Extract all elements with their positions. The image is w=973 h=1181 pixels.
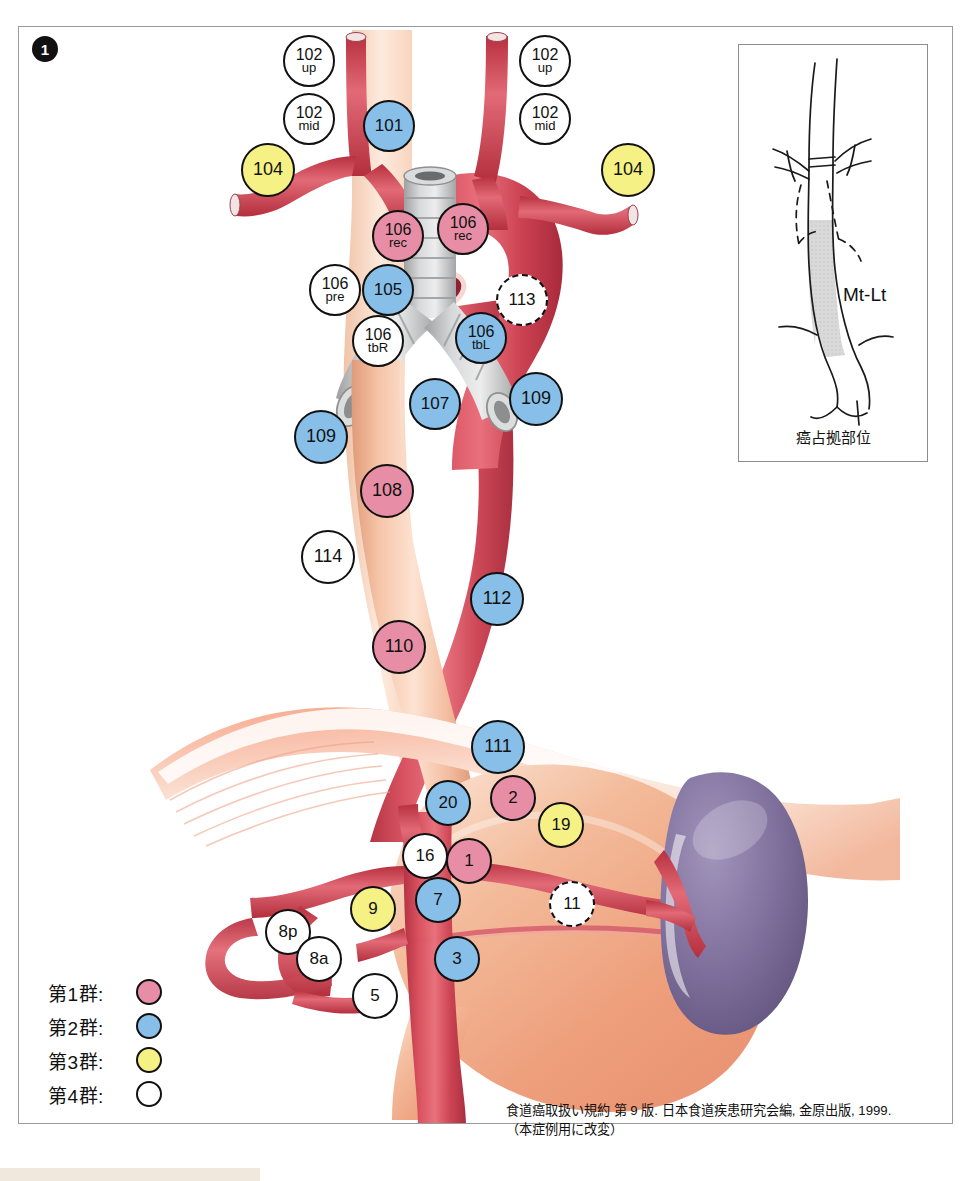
node-label-secondary: tbR (368, 342, 388, 355)
node-marker-106tbR[interactable]: 106tbR (352, 315, 404, 367)
node-label-primary: 104 (253, 161, 283, 179)
node-marker-113[interactable]: 113 (496, 274, 548, 326)
node-label-primary: 112 (483, 590, 512, 608)
node-label-primary: 2 (508, 790, 517, 807)
node-marker-8a[interactable]: 8a (296, 936, 342, 982)
node-marker-111[interactable]: 111 (471, 720, 525, 774)
legend-row-group2: 第2群: (48, 1009, 162, 1043)
node-marker-108[interactable]: 108 (360, 464, 414, 518)
node-marker-11[interactable]: 11 (549, 881, 595, 927)
node-label-primary: 113 (508, 292, 535, 309)
tumor-location-inset: Mt-Lt 癌占拠部位 (738, 44, 928, 462)
node-marker-107[interactable]: 107 (409, 378, 461, 430)
node-marker-102mid-left[interactable]: 102mid (283, 93, 335, 145)
node-marker-106rec-left[interactable]: 106rec (372, 210, 424, 262)
node-marker-112[interactable]: 112 (470, 572, 524, 626)
node-label-primary: 1 (464, 853, 473, 870)
node-marker-2[interactable]: 2 (490, 775, 536, 821)
node-marker-9[interactable]: 9 (350, 886, 396, 932)
node-label-primary: 101 (375, 118, 403, 135)
legend-row-group4: 第4群: (48, 1077, 162, 1111)
node-label-primary: 108 (372, 482, 402, 500)
node-label-secondary: rec (454, 230, 472, 243)
legend-label: 第4群: (48, 1081, 136, 1108)
node-marker-106pre[interactable]: 106pre (309, 264, 361, 316)
page-bottom-strip (0, 1168, 260, 1181)
node-marker-105[interactable]: 105 (362, 264, 414, 316)
node-marker-104-right[interactable]: 104 (601, 143, 655, 197)
node-label-primary: 114 (314, 548, 343, 566)
legend-swatch-group4 (136, 1081, 162, 1107)
legend-label: 第3群: (48, 1047, 136, 1074)
node-label-primary: 110 (385, 638, 414, 656)
node-marker-106rec-right[interactable]: 106rec (437, 203, 489, 255)
node-label-primary: 8a (310, 951, 329, 968)
node-marker-19[interactable]: 19 (538, 802, 584, 848)
node-marker-102up-left[interactable]: 102up (283, 35, 335, 87)
node-label-primary: 109 (521, 390, 551, 408)
citation: 食道癌取扱い規約 第 9 版. 日本食道疾患研究会編, 金原出版, 1999. … (506, 1101, 936, 1139)
node-marker-104-left[interactable]: 104 (241, 143, 295, 197)
node-label-primary: 107 (421, 396, 449, 413)
node-label-primary: 16 (416, 848, 435, 865)
legend-label: 第1群: (48, 979, 136, 1006)
node-marker-101[interactable]: 101 (363, 100, 415, 152)
node-marker-109-left[interactable]: 109 (294, 410, 348, 464)
node-marker-16[interactable]: 16 (402, 833, 448, 879)
node-marker-102up-right[interactable]: 102up (519, 35, 571, 87)
node-label-primary: 19 (552, 817, 571, 834)
node-label-primary: 105 (374, 282, 402, 299)
node-label-primary: 7 (433, 892, 442, 909)
node-marker-7[interactable]: 7 (415, 877, 461, 923)
node-label-primary: 11 (563, 896, 581, 913)
node-label-secondary: tbL (472, 339, 490, 352)
node-label-primary: 5 (370, 988, 379, 1005)
node-label-secondary: mid (534, 120, 555, 133)
node-marker-1[interactable]: 1 (446, 838, 492, 884)
node-marker-5[interactable]: 5 (352, 973, 398, 1019)
legend-row-group3: 第3群: (48, 1043, 162, 1077)
node-label-secondary: pre (326, 291, 345, 304)
node-marker-3[interactable]: 3 (434, 936, 480, 982)
inset-esophagus-drawing: Mt-Lt (739, 45, 929, 463)
node-label-primary: 20 (439, 795, 458, 812)
legend: 第1群:第2群:第3群:第4群: (48, 975, 162, 1111)
node-marker-110[interactable]: 110 (372, 620, 426, 674)
legend-row-group1: 第1群: (48, 975, 162, 1009)
figure-number: 1 (32, 36, 58, 62)
citation-line-1: 食道癌取扱い規約 第 9 版. 日本食道疾患研究会編, 金原出版, 1999. (506, 1101, 936, 1120)
citation-line-2: （本症例用に改変） (506, 1120, 936, 1139)
legend-swatch-group1 (136, 979, 162, 1005)
node-label-secondary: up (302, 62, 317, 75)
node-label-secondary: mid (298, 120, 319, 133)
legend-swatch-group2 (136, 1013, 162, 1039)
node-label-secondary: rec (389, 237, 407, 250)
legend-label: 第2群: (48, 1013, 136, 1040)
node-label-primary: 104 (613, 161, 643, 179)
node-marker-114[interactable]: 114 (301, 530, 355, 584)
node-label-primary: 109 (306, 428, 336, 446)
node-marker-102mid-right[interactable]: 102mid (519, 93, 571, 145)
node-label-primary: 3 (452, 951, 461, 968)
node-marker-20[interactable]: 20 (425, 780, 471, 826)
figure-page: 1 (0, 0, 973, 1181)
node-label-primary: 9 (368, 901, 377, 918)
node-label-primary: 8p (279, 924, 298, 941)
node-label-primary: 111 (484, 738, 511, 756)
inset-caption: 癌占拠部位 (739, 426, 927, 447)
inset-mtlt-label: Mt-Lt (843, 284, 887, 305)
node-marker-109-right[interactable]: 109 (509, 372, 563, 426)
node-label-secondary: up (538, 62, 553, 75)
node-marker-106tbL[interactable]: 106tbL (455, 312, 507, 364)
legend-swatch-group3 (136, 1047, 162, 1073)
